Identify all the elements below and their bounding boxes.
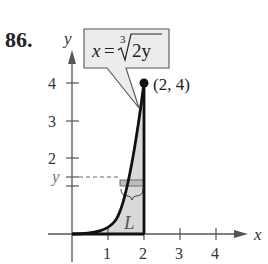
x-tick-2: 2 (139, 245, 147, 262)
point-label: (2, 4) (153, 75, 190, 94)
x-tick-1: 1 (103, 245, 111, 262)
callout-radical-index: 3 (120, 33, 126, 45)
callout-radicand: 2y (132, 40, 152, 61)
horizontal-strip (120, 180, 144, 186)
y-tick-2: 2 (48, 150, 56, 167)
region-label: L (123, 212, 135, 233)
callout-equals: = (104, 40, 115, 61)
callout-lhs-x: x (91, 40, 101, 61)
y-tick-4: 4 (48, 75, 56, 92)
arc-length-figure: 86. y x 1 2 3 4 4 3 2 y L (0, 0, 268, 264)
x-tick-4: 4 (211, 245, 219, 262)
y-tick-3: 3 (48, 113, 56, 130)
endpoint-marker (140, 79, 149, 88)
problem-number: 86. (5, 27, 33, 52)
y-axis-label: y (62, 29, 72, 48)
y-axis-arrow-icon (68, 50, 76, 64)
x-axis-arrow-icon (234, 230, 248, 238)
x-tick-3: 3 (175, 245, 183, 262)
x-axis-label: x (253, 225, 262, 244)
y-marker-label: y (50, 167, 60, 186)
